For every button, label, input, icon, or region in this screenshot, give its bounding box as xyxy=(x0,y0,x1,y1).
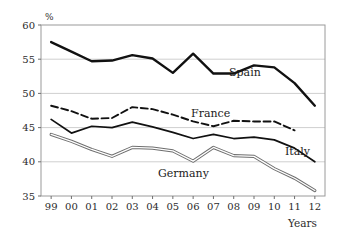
series-label-france: France xyxy=(191,107,230,120)
y-axis-tick-labels: 605550454035 xyxy=(22,20,41,202)
x-tick-12: 12 xyxy=(308,201,321,212)
x-tick-05: 05 xyxy=(166,201,179,212)
chart-container: % 605550454035 9900010203040506070809101… xyxy=(0,0,345,238)
y-tick-50: 50 xyxy=(22,88,35,99)
x-tick-11: 11 xyxy=(288,201,301,212)
x-tick-10: 10 xyxy=(268,201,281,212)
x-tick-04: 04 xyxy=(146,201,159,212)
y-axis-unit-label: % xyxy=(45,12,54,22)
x-tick-99: 99 xyxy=(45,201,58,212)
x-tick-03: 03 xyxy=(126,201,139,212)
x-tick-08: 08 xyxy=(227,201,240,212)
y-tick-45: 45 xyxy=(22,122,35,133)
series-label-italy: Italy xyxy=(285,145,311,158)
series-label-spain: Spain xyxy=(229,66,261,79)
x-tick-02: 02 xyxy=(106,201,119,212)
x-axis-tick-labels: 9900010203040506070809101112 xyxy=(45,196,321,212)
x-tick-00: 00 xyxy=(65,201,78,212)
x-tick-09: 09 xyxy=(248,201,261,212)
y-tick-40: 40 xyxy=(22,156,35,167)
y-tick-60: 60 xyxy=(22,20,35,31)
y-tick-55: 55 xyxy=(22,54,35,65)
x-tick-07: 07 xyxy=(207,201,220,212)
y-tick-35: 35 xyxy=(22,191,35,202)
series-label-germany: Germany xyxy=(158,167,210,180)
x-tick-01: 01 xyxy=(85,201,98,212)
x-tick-06: 06 xyxy=(187,201,200,212)
x-axis-title: Years xyxy=(287,217,317,229)
line-chart: % 605550454035 9900010203040506070809101… xyxy=(0,0,345,238)
